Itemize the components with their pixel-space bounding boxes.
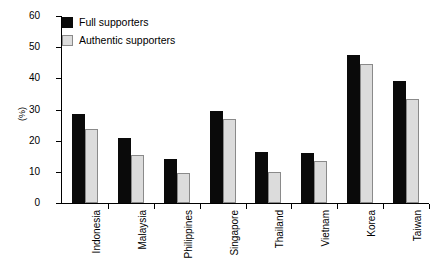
x-label-taiwan: Taiwan xyxy=(411,210,425,276)
bar-authentic-supporters xyxy=(406,99,419,203)
x-tick-mark xyxy=(337,204,338,209)
y-tick-label-10: 10 xyxy=(18,167,40,177)
bar-chart: (%) 0102030405060 IndonesiaMalaysiaPhili… xyxy=(0,0,435,278)
bar-authentic-supporters xyxy=(131,155,144,203)
bar-group xyxy=(255,16,281,203)
y-tick-label-40: 40 xyxy=(18,73,40,83)
bar-authentic-supporters xyxy=(268,172,281,203)
x-label-korea: Korea xyxy=(365,210,379,276)
legend-swatch-authentic-supporters xyxy=(62,35,73,46)
bar-authentic-supporters xyxy=(360,64,373,203)
bar-group xyxy=(347,16,373,203)
bar-authentic-supporters xyxy=(314,161,327,203)
bar-authentic-supporters xyxy=(85,129,98,203)
bar-authentic-supporters xyxy=(177,173,190,203)
y-tick-label-60: 60 xyxy=(18,11,40,21)
x-label-singapore: Singapore xyxy=(228,210,242,276)
bar-full-supporters xyxy=(301,153,314,203)
legend-item-authentic-supporters: Authentic supporters xyxy=(62,32,232,48)
bar-group xyxy=(393,16,419,203)
x-tick-mark xyxy=(108,204,109,209)
bar-full-supporters xyxy=(393,81,406,203)
x-tick-mark xyxy=(246,204,247,209)
legend-label-authentic-supporters: Authentic supporters xyxy=(79,34,175,46)
y-tick-label-50: 50 xyxy=(18,42,40,52)
bar-full-supporters xyxy=(118,138,131,203)
x-tick-mark xyxy=(154,204,155,209)
legend-swatch-full-supporters xyxy=(62,17,73,28)
bar-group xyxy=(301,16,327,203)
bar-full-supporters xyxy=(210,111,223,203)
x-label-indonesia: Indonesia xyxy=(90,210,104,276)
bar-full-supporters xyxy=(347,55,360,203)
x-tick-mark xyxy=(383,204,384,209)
x-label-philippines: Philippines xyxy=(182,210,196,276)
x-label-thailand: Thailand xyxy=(273,210,287,276)
legend-label-full-supporters: Full supporters xyxy=(79,16,148,28)
chart-legend: Full supporters Authentic supporters xyxy=(62,14,232,50)
y-tick-label-20: 20 xyxy=(18,136,40,146)
x-tick-mark xyxy=(200,204,201,209)
x-tick-mark xyxy=(291,204,292,209)
bar-full-supporters xyxy=(72,114,85,203)
bar-full-supporters xyxy=(164,159,177,203)
x-label-vietnam: Vietnam xyxy=(319,210,333,276)
x-tick-mark xyxy=(429,204,430,209)
x-axis-category-labels: IndonesiaMalaysiaPhilippinesSingaporeTha… xyxy=(0,210,435,278)
x-label-malaysia: Malaysia xyxy=(136,210,150,276)
bar-authentic-supporters xyxy=(223,119,236,203)
y-tick-label-30: 30 xyxy=(18,105,40,115)
legend-item-full-supporters: Full supporters xyxy=(62,14,232,30)
bar-full-supporters xyxy=(255,152,268,203)
